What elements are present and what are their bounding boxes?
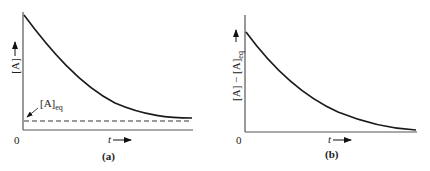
caption-a: (a): [102, 150, 115, 163]
svg-text:[A] − [A]eq: [A] − [A]eq: [230, 51, 245, 101]
equilibrium-annotation: [A]eq: [27, 97, 63, 117]
origin-label-b: 0: [236, 134, 242, 146]
svg-text:[A]eq: [A]eq: [40, 97, 63, 112]
y-axis-label-b: [A] − [A]eq: [230, 30, 245, 101]
svg-text:[A]: [A]: [9, 58, 21, 73]
panel-b: [A] − [A]eq 0 t (b): [230, 15, 417, 161]
svg-text:t: t: [328, 133, 332, 145]
panel-a: [A] [A]eq 0 t (a): [9, 12, 193, 163]
y-axis-label-a: [A]: [9, 42, 21, 74]
svg-text:t: t: [108, 133, 112, 145]
x-axis-label-b: t: [328, 133, 351, 145]
x-axis-label-a: t: [108, 133, 131, 145]
decay-curve-b: [246, 32, 416, 130]
origin-label-a: 0: [14, 134, 20, 146]
caption-b: (b): [325, 148, 339, 161]
figure: [A] [A]eq 0 t (a) [A] − [A]eq 0 t (b): [0, 0, 430, 171]
